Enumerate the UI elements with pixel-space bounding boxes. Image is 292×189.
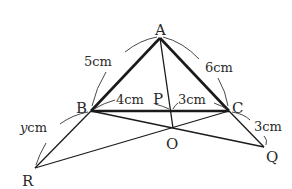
label-b: B — [76, 99, 87, 117]
label-o: O — [166, 135, 178, 153]
length-ab: 5cm — [84, 54, 112, 69]
length-br: ycm — [19, 120, 47, 135]
unit-cm: cm — [27, 120, 47, 135]
point-labels: A B C P O Q R — [22, 21, 278, 189]
length-cq: 3cm — [254, 119, 282, 134]
auxiliary-lines — [35, 38, 264, 168]
arc-cq-bottom — [264, 136, 267, 145]
label-r: R — [22, 172, 34, 189]
geometry-diagram: A B C P O Q R 5cm 6cm 4cm 3cm 3cm ycm — [0, 0, 292, 189]
length-pc: 3cm — [178, 92, 206, 107]
label-c: C — [232, 99, 243, 117]
label-q: Q — [266, 148, 278, 166]
length-ac: 6cm — [205, 60, 233, 75]
label-a: A — [154, 21, 166, 39]
label-p: P — [153, 90, 163, 108]
length-bp: 4cm — [116, 92, 144, 107]
